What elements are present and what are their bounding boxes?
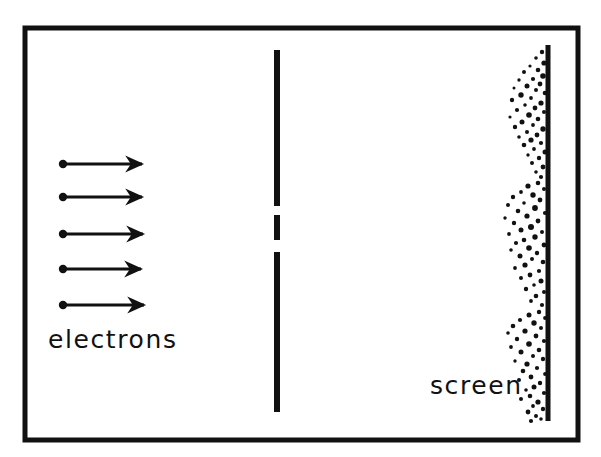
speckle-dot <box>540 230 544 234</box>
speckle-dot <box>511 324 516 329</box>
speckle-dot <box>529 299 533 303</box>
speckle-dot <box>534 294 539 299</box>
speckle-dot <box>513 125 517 129</box>
speckle-dot <box>534 88 538 92</box>
speckle-dot <box>532 234 537 239</box>
speckle-dot <box>537 269 541 273</box>
speckle-dot <box>540 73 546 79</box>
speckle-dot <box>528 137 533 142</box>
speckle-dot <box>519 228 524 233</box>
speckle-dot <box>515 337 519 341</box>
electron-diffraction-figure: electrons screen <box>0 0 601 457</box>
speckle-dot <box>528 273 533 278</box>
diagram-canvas: electrons screen <box>0 0 601 457</box>
impact-speckle-pattern <box>503 50 547 423</box>
speckle-dot <box>540 303 544 307</box>
speckle-dot <box>536 117 541 122</box>
speckle-dot <box>513 359 516 362</box>
speckle-dot <box>524 213 529 218</box>
speckle-dot <box>531 123 535 127</box>
speckle-dot <box>541 407 545 411</box>
speckle-dot <box>528 394 533 399</box>
speckle-dot <box>543 211 547 215</box>
speckle-dot <box>531 77 535 81</box>
speckle-dot <box>535 251 539 255</box>
speckle-dot <box>508 115 511 118</box>
speckle-dot <box>532 147 536 151</box>
speckle-dot <box>530 192 535 197</box>
speckle-dot <box>522 143 527 148</box>
speckle-dot <box>529 419 533 423</box>
speckle-dot <box>541 260 546 265</box>
speckle-dot <box>539 279 544 284</box>
speckle-dot <box>530 161 534 165</box>
speckle-dot <box>518 254 523 259</box>
speckle-dot <box>503 216 506 219</box>
speckle-dot <box>522 238 527 243</box>
speckle-dot <box>536 219 541 224</box>
electron-dot-3 <box>59 230 67 238</box>
speckle-dot <box>524 388 528 392</box>
speckle-dot <box>534 56 538 60</box>
speckle-dot <box>532 205 538 211</box>
speckle-dot <box>520 120 525 125</box>
speckle-dot <box>527 313 532 318</box>
electron-dot-1 <box>59 160 67 168</box>
speckle-dot <box>528 224 534 230</box>
speckle-dot <box>525 130 529 134</box>
speckle-dot <box>528 64 531 67</box>
speckle-dot <box>513 266 517 270</box>
speckle-dot <box>543 150 548 155</box>
screen-label: screen <box>430 371 523 400</box>
speckle-dot <box>543 372 547 376</box>
speckle-dot <box>524 287 528 291</box>
speckle-dot <box>539 141 543 145</box>
speckle-dot <box>535 399 540 404</box>
speckle-dot <box>515 108 519 112</box>
speckle-dot <box>539 326 543 330</box>
speckle-dot <box>526 112 532 118</box>
speckle-dot <box>509 248 513 252</box>
speckle-dot <box>522 70 526 74</box>
speckle-dot <box>541 165 546 170</box>
speckle-dot <box>522 328 527 333</box>
speckle-dot <box>538 381 542 385</box>
speckle-dot <box>529 375 534 380</box>
speckle-dot <box>522 262 527 267</box>
speckle-dot <box>534 414 538 418</box>
speckle-dot <box>543 91 548 96</box>
speckle-dot <box>542 110 546 114</box>
speckle-dot <box>519 276 523 280</box>
speckle-dot <box>536 68 541 73</box>
speckle-dot <box>531 320 536 325</box>
electrons-label: electrons <box>48 325 178 354</box>
speckle-dot <box>522 201 526 205</box>
speckle-dot <box>541 60 546 65</box>
speckle-dot <box>539 417 543 421</box>
electron-dot-2 <box>59 193 67 201</box>
electron-dot-4 <box>59 265 67 273</box>
speckle-dot <box>532 283 536 287</box>
speckle-dot <box>542 187 546 191</box>
speckle-dot <box>525 183 530 188</box>
speckle-dot <box>513 87 516 90</box>
speckle-dot <box>543 316 547 320</box>
speckle-dot <box>517 135 521 139</box>
speckle-dot <box>530 257 534 261</box>
speckle-dot <box>533 106 538 111</box>
speckle-dot <box>509 345 513 349</box>
speckle-dot <box>516 209 521 214</box>
speckle-dot <box>538 100 543 105</box>
speckle-dot <box>540 50 544 54</box>
speckle-dot <box>514 241 518 245</box>
speckle-dot <box>518 318 522 322</box>
speckle-dot <box>537 348 542 353</box>
speckle-dot <box>526 153 529 156</box>
speckle-dot <box>525 84 530 89</box>
speckle-dot <box>538 82 543 87</box>
speckle-dot <box>535 133 540 138</box>
speckle-dot <box>541 357 545 361</box>
speckle-dot <box>519 190 523 194</box>
speckle-dot <box>523 103 527 107</box>
speckle-dot <box>534 170 538 174</box>
